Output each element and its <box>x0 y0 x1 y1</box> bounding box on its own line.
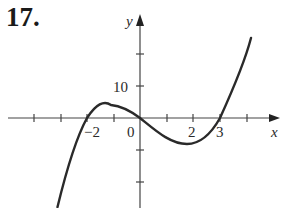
y-axis-label: y <box>124 13 133 29</box>
x-tick-label-2: 2 <box>188 124 196 140</box>
x-tick-label-minus2: −2 <box>84 124 100 140</box>
y-axis-arrow-icon <box>136 14 144 26</box>
x-axis-label: x <box>270 124 278 140</box>
origin-label: 0 <box>127 124 135 140</box>
cubic-graph: y x 10 −2 0 2 3 <box>0 0 282 208</box>
x-tick-label-3: 3 <box>216 124 224 140</box>
x-axis-arrow-icon <box>269 114 280 122</box>
y-tick-label-10: 10 <box>113 79 128 95</box>
cubic-curve <box>58 38 252 207</box>
